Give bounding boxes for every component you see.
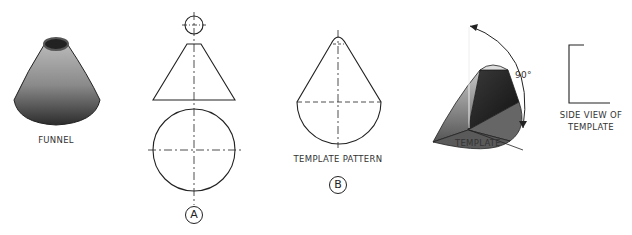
template-pattern-label: TEMPLATE PATTERN bbox=[285, 154, 391, 164]
template-3d-illustration bbox=[433, 24, 527, 150]
view-b-marker: B bbox=[329, 176, 347, 194]
angle-label: 90° bbox=[515, 70, 532, 80]
template-label: TEMPLATE bbox=[448, 138, 508, 148]
view-a-marker: A bbox=[185, 206, 203, 224]
funnel-label: FUNNEL bbox=[18, 135, 94, 145]
side-view-drawing bbox=[569, 45, 610, 103]
template-pattern-drawing bbox=[297, 30, 381, 148]
side-view-label-line1: SIDE VIEW OF bbox=[556, 110, 626, 120]
orthographic-views-a bbox=[148, 12, 244, 205]
funnel-illustration bbox=[14, 38, 100, 125]
side-view-label-line2: TEMPLATE bbox=[556, 122, 626, 132]
diagram-canvas bbox=[0, 0, 632, 235]
